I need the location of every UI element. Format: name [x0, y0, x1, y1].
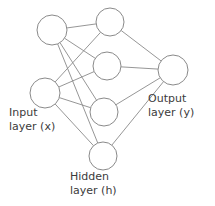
hidden-layer-label-line2: layer (h) — [70, 184, 117, 198]
output-layer-label-line1: Output — [148, 92, 194, 106]
hidden-layer-label-line1: Hidden — [70, 170, 117, 184]
neuron-node-h4 — [89, 142, 117, 170]
neuron-node-h2 — [93, 52, 121, 80]
connection-edge — [121, 30, 161, 60]
connection-edge — [121, 67, 158, 69]
input-layer-label-line2: layer (x) — [9, 120, 55, 134]
neuron-node-h3 — [90, 98, 118, 126]
neuron-node-x1 — [37, 15, 67, 45]
connection-edge — [67, 24, 96, 28]
neuron-node-x2 — [30, 78, 60, 108]
output-layer-label-line2: layer (y) — [148, 106, 194, 120]
hidden-layer-label: Hidden layer (h) — [70, 170, 117, 197]
nodes-group — [30, 8, 188, 170]
connection-edge — [59, 98, 90, 108]
neuron-node-y1 — [158, 55, 188, 85]
input-layer-label-line1: Input — [9, 106, 55, 120]
edges-group — [55, 24, 163, 146]
input-layer-label: Input layer (x) — [9, 106, 55, 133]
connection-edge — [59, 72, 94, 87]
output-layer-label: Output layer (y) — [148, 92, 194, 119]
connection-edge — [55, 104, 93, 146]
neuron-node-h1 — [96, 8, 124, 36]
connection-edge — [60, 43, 96, 101]
neural-network-diagram: Input layer (x) Output layer (y) Hidden … — [0, 0, 215, 206]
